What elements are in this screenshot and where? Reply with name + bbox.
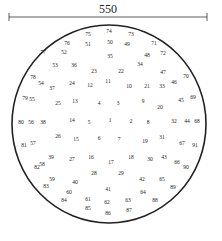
point-label: 38 xyxy=(40,120,46,126)
point-label: 67 xyxy=(179,141,185,147)
point-label: 26 xyxy=(55,134,61,140)
point-label: 70 xyxy=(183,74,189,80)
point-label: 36 xyxy=(71,63,77,69)
point-label: 6 xyxy=(98,136,101,142)
point-label: 10 xyxy=(126,84,132,90)
point-label: 87 xyxy=(126,208,132,214)
point-label: 56 xyxy=(28,120,34,126)
point-label: 50 xyxy=(107,40,113,46)
point-label: 48 xyxy=(144,53,150,59)
point-label: 71 xyxy=(151,41,157,47)
point-label: 51 xyxy=(85,42,91,48)
point-label: 68 xyxy=(194,119,200,125)
point-label: 66 xyxy=(174,160,180,166)
point-label: 81 xyxy=(21,143,27,149)
point-label: 73 xyxy=(128,32,134,38)
point-label: 14 xyxy=(69,118,75,124)
point-label: 32 xyxy=(171,119,177,125)
point-label: 21 xyxy=(144,84,150,90)
point-label: 45 xyxy=(178,98,184,104)
point-label: 25 xyxy=(55,101,61,107)
point-label: 57 xyxy=(30,141,36,147)
point-label: 72 xyxy=(160,51,166,57)
point-label: 60 xyxy=(66,190,72,196)
point-label: 23 xyxy=(91,69,97,75)
point-label: 58 xyxy=(39,162,45,168)
point-label: 40 xyxy=(72,180,78,186)
point-label: 86 xyxy=(105,211,111,217)
point-label: 24 xyxy=(69,81,75,87)
dimension-label: 550 xyxy=(99,3,117,15)
point-label: 2 xyxy=(130,119,133,125)
point-label: 75 xyxy=(85,32,91,38)
point-label: 39 xyxy=(48,155,54,161)
point-label: 44 xyxy=(184,119,190,125)
point-label: 22 xyxy=(118,69,124,75)
point-label: 46 xyxy=(171,80,177,86)
point-label: 28 xyxy=(91,171,97,177)
point-label: 27 xyxy=(69,157,75,163)
point-label: 35 xyxy=(107,54,113,60)
point-label: 80 xyxy=(18,120,24,126)
point-label: 89 xyxy=(170,185,176,191)
point-label: 42 xyxy=(139,177,145,183)
point-label: 83 xyxy=(43,184,49,190)
point-label: 47 xyxy=(160,70,166,76)
point-label: 91 xyxy=(192,143,198,149)
point-label: 54 xyxy=(38,81,44,87)
point-label: 33 xyxy=(159,84,165,90)
point-label: 7 xyxy=(118,137,121,143)
point-label: 19 xyxy=(142,139,148,145)
point-label: 52 xyxy=(61,50,67,56)
point-label: 76 xyxy=(64,41,70,47)
point-label: 15 xyxy=(73,137,79,143)
point-label: 64 xyxy=(140,190,146,196)
point-label: 69 xyxy=(190,95,196,101)
point-label: 53 xyxy=(52,63,58,69)
point-label: 88 xyxy=(152,198,158,204)
point-label: 78 xyxy=(30,75,36,81)
point-label: 1 xyxy=(109,118,112,124)
point-label: 8 xyxy=(147,120,150,126)
point-label: 16 xyxy=(88,155,94,161)
point-label: 31 xyxy=(159,135,165,141)
point-label: 74 xyxy=(106,29,112,35)
point-label: 63 xyxy=(125,198,131,204)
point-label: 29 xyxy=(118,171,124,177)
point-label: 37 xyxy=(49,86,55,92)
point-label: 79 xyxy=(22,96,28,102)
point-label: 84 xyxy=(61,198,67,204)
point-label: 59 xyxy=(49,177,55,183)
point-label: 12 xyxy=(87,83,93,89)
point-label: 3 xyxy=(117,101,120,107)
point-label: 18 xyxy=(128,155,134,161)
point-label: 61 xyxy=(85,197,91,203)
point-label: 4 xyxy=(98,101,101,107)
point-label: 13 xyxy=(72,99,78,105)
point-label: 55 xyxy=(29,97,35,103)
point-label: 17 xyxy=(108,160,114,166)
point-label: 65 xyxy=(159,177,165,183)
point-label: 62 xyxy=(104,200,110,206)
point-label: 49 xyxy=(124,42,130,48)
point-label: 41 xyxy=(105,187,111,193)
point-label: 43 xyxy=(161,155,167,161)
point-label: 5 xyxy=(88,120,91,126)
point-label: 34 xyxy=(137,62,143,68)
point-label: 11 xyxy=(105,79,110,85)
point-label: 20 xyxy=(157,105,163,111)
point-label: 77 xyxy=(40,50,46,56)
point-label: 85 xyxy=(85,206,91,212)
point-label: 9 xyxy=(142,99,145,105)
point-label: 90 xyxy=(183,165,189,171)
point-label: 30 xyxy=(147,157,153,163)
